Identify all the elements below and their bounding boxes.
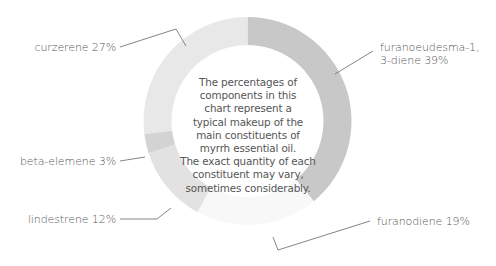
annotation-line: components in this [177, 89, 319, 102]
leader-line [335, 51, 373, 74]
annotation-line: sometimes considerably. [177, 182, 319, 195]
annotation-line: constituent may vary, [177, 168, 319, 181]
leader-line [120, 157, 145, 161]
leader-line [120, 208, 171, 219]
annotation-line: typical makeup of the [177, 116, 319, 129]
label-furanodiene: furanodiene 19% [377, 215, 470, 228]
label-beta-elemene: beta-elemene 3% [20, 155, 116, 168]
annotation-line: The exact quantity of each [177, 155, 319, 168]
label-lindestrene: lindestrene 12% [28, 213, 116, 226]
leader-line [273, 221, 370, 250]
label-curzerene: curzerene 27% [34, 41, 116, 54]
annotation-line: myrrh essential oil. [177, 142, 319, 155]
label-furanoeudesma-line1: furanoeudesma-1, [380, 41, 479, 54]
annotation-line: chart represent a [177, 102, 319, 115]
annotation-line: The percentages of [177, 76, 319, 89]
label-furanoeudesma-line2: 3-diene 39% [380, 54, 479, 67]
center-annotation: The percentages of components in this ch… [177, 76, 319, 195]
leader-line [120, 29, 186, 47]
label-furanoeudesma: furanoeudesma-1, 3-diene 39% [380, 41, 479, 67]
annotation-line: main constituents of [177, 129, 319, 142]
